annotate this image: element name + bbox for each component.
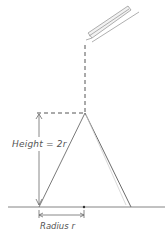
radius-dimension	[39, 210, 84, 218]
radius-label: Radius r	[40, 221, 75, 231]
center-point	[83, 206, 85, 208]
cone-triangle	[39, 113, 131, 207]
pencil-icon	[86, 6, 139, 42]
cone-diagram	[0, 0, 168, 235]
height-arrow	[36, 114, 42, 205]
height-label: Height = 2r	[12, 139, 67, 149]
